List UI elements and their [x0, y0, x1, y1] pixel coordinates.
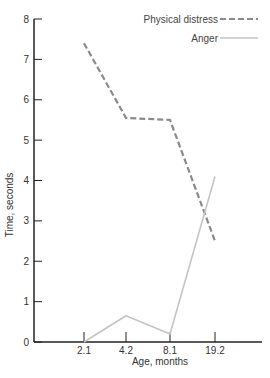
y-tick-label: 4 — [23, 175, 29, 186]
series-physical-distress — [84, 43, 215, 241]
line-chart: 012345678 2.14.28.119.2 Physical distres… — [0, 0, 270, 378]
y-tick-label: 2 — [23, 256, 29, 267]
series-anger — [84, 176, 215, 342]
y-axis: 012345678 — [23, 14, 42, 348]
series-lines — [84, 43, 215, 342]
legend-label: Physical distress — [144, 14, 218, 25]
x-tick-label: 19.2 — [205, 345, 225, 356]
legend: Physical distressAnger — [144, 14, 258, 44]
y-tick-label: 5 — [23, 135, 29, 146]
y-tick-label: 7 — [23, 54, 29, 65]
x-tick-label: 4.2 — [119, 345, 133, 356]
x-tick-label: 8.1 — [163, 345, 177, 356]
y-tick-label: 3 — [23, 215, 29, 226]
y-tick-label: 6 — [23, 94, 29, 105]
y-tick-label: 1 — [23, 296, 29, 307]
y-tick-label: 0 — [23, 337, 29, 348]
x-axis-title: Age, months — [132, 356, 188, 367]
x-tick-label: 2.1 — [77, 345, 91, 356]
y-tick-label: 8 — [23, 14, 29, 25]
y-axis-title: Time, seconds — [4, 173, 15, 238]
legend-label: Anger — [191, 33, 218, 44]
x-axis: 2.14.28.119.2 — [34, 332, 262, 356]
